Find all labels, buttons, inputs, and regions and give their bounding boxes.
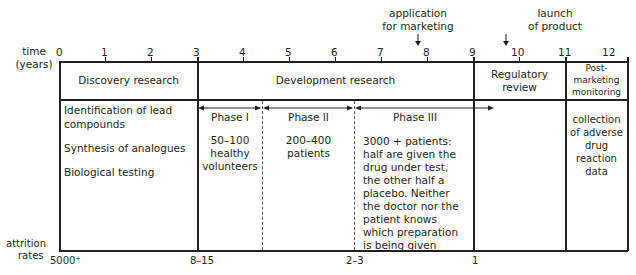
- tick-label: 0: [56, 46, 63, 59]
- stage-text: Regulatory: [474, 68, 565, 81]
- phase-text: drug under test,: [363, 161, 459, 174]
- attrition-value: 8–15: [190, 254, 214, 267]
- attrition-value: 2–3: [346, 254, 364, 267]
- detail-text: Synthesis of analogues: [64, 141, 186, 155]
- axis-label: time (years): [14, 45, 54, 71]
- attrition-label: attrition rates: [6, 238, 46, 262]
- stage-text: monitoring: [566, 86, 627, 98]
- detail-text: data: [566, 165, 627, 178]
- attrition-value: 1: [472, 254, 478, 267]
- phase-text: the doctor nor the: [363, 200, 459, 213]
- phase-2: Phase II 200–400 patients: [263, 111, 354, 160]
- phase-3-description: 3000 + patients: half are given the drug…: [363, 135, 459, 252]
- detail-text: reaction: [566, 152, 627, 165]
- launch-annotation: launch of product: [520, 7, 590, 33]
- stage-text: marketing: [566, 74, 627, 86]
- detail-text: drug: [566, 139, 627, 152]
- discovery-details: Identification of lead compounds Synthes…: [64, 103, 186, 179]
- phase-text: half are given the: [363, 148, 459, 161]
- application-annotation: application for marketing: [368, 7, 468, 33]
- tick-label: 12: [602, 46, 615, 59]
- detail-text: of adverse: [566, 126, 627, 139]
- time-axis-line: [59, 61, 628, 63]
- phase-text: 50–100: [198, 134, 262, 147]
- detail-text: Identification of lead: [64, 103, 186, 117]
- phase-text: patients: [263, 147, 354, 160]
- phase-1: Phase I 50–100 healthy volunteers: [198, 111, 262, 173]
- stage-divider-line: [59, 99, 628, 101]
- phase-title: Phase II: [263, 111, 354, 124]
- stage-discovery: Discovery research: [60, 74, 197, 87]
- attrition-value: 5000⁺: [50, 254, 81, 267]
- stage-post-marketing: Post- marketing monitoring: [566, 62, 627, 98]
- stage-development: Development research: [198, 74, 473, 87]
- boundary-year-12: [627, 57, 629, 251]
- phase-text: placebo. Neither: [363, 187, 459, 200]
- annotation-text: launch: [520, 7, 590, 20]
- boundary-year-0: [59, 61, 61, 251]
- phase-text: is being given: [363, 239, 459, 252]
- phase-text: which preparation: [363, 226, 459, 239]
- arrow-down-icon: [502, 34, 510, 47]
- attrition-label-text: rates: [6, 250, 46, 262]
- phase-text: 3000 + patients:: [363, 135, 459, 148]
- phase-text: patient knows: [363, 213, 459, 226]
- annotation-text: application: [368, 7, 468, 20]
- phase-3-title: Phase III: [355, 111, 475, 124]
- stage-regulatory: Regulatory review: [474, 68, 565, 94]
- stage-text: review: [474, 81, 565, 94]
- axis-label-text: time: [14, 45, 54, 58]
- arrow-down-icon: [414, 34, 422, 47]
- detail-text: collection: [566, 113, 627, 126]
- phase-title: Phase I: [198, 111, 262, 124]
- post-marketing-details: collection of adverse drug reaction data: [566, 113, 627, 178]
- detail-text: Biological testing: [64, 165, 186, 179]
- attrition-baseline: [59, 250, 628, 252]
- phase-text: volunteers: [198, 160, 262, 173]
- tick-label: 10: [511, 46, 524, 59]
- phase-text: healthy: [198, 147, 262, 160]
- axis-label-text: (years): [14, 58, 54, 71]
- phase-text: 200–400: [263, 134, 354, 147]
- phase-text: the other half a: [363, 174, 459, 187]
- annotation-text: of product: [520, 20, 590, 33]
- stage-text: Post-: [566, 62, 627, 74]
- attrition-label-text: attrition: [6, 238, 46, 250]
- annotation-text: for marketing: [368, 20, 468, 33]
- detail-text: compounds: [64, 117, 186, 131]
